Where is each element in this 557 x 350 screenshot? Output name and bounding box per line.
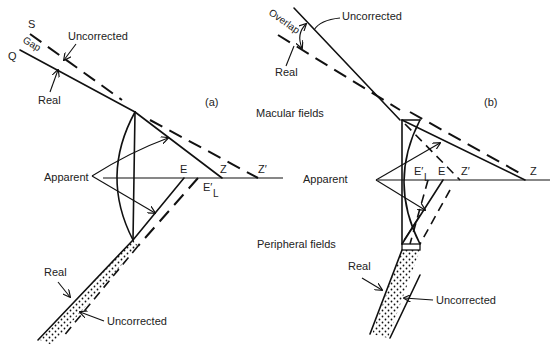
lens-b-curve xyxy=(404,120,420,244)
peripheral-fields-label: Peripheral fields xyxy=(257,238,336,250)
upper-real-leader-b xyxy=(286,46,294,66)
optical-field-diagram: (a) Q S Gap Uncorrected Real Apparent E … xyxy=(0,0,557,350)
panel-a: (a) Q S Gap Uncorrected Real Apparent E … xyxy=(8,18,283,345)
panel-b-label: (b) xyxy=(484,96,497,108)
point-e-a: E xyxy=(180,163,187,175)
upper-uncorrected-arrow-a xyxy=(64,44,76,60)
ray-label-s: S xyxy=(28,18,35,30)
lens-a-plane xyxy=(133,112,135,240)
panel-a-label: (a) xyxy=(205,96,218,108)
ray-to-z-prime xyxy=(150,120,258,178)
lower-real-label-a: Real xyxy=(44,266,67,278)
apparent-arrow-up-a xyxy=(92,138,168,176)
upper-real-arrow-a xyxy=(50,70,58,92)
lower-uncorrected-arrow-a xyxy=(80,312,104,321)
lower-uncorrected-label-a: Uncorrected xyxy=(107,315,167,327)
ray-s-uncorrected xyxy=(30,34,122,100)
apparent-arrow-down-b xyxy=(376,180,425,210)
point-z-prime-a: Z′ xyxy=(258,163,267,175)
lower-real-label-b: Real xyxy=(348,260,371,272)
apparent-arrow-down-a xyxy=(92,176,155,213)
peripheral-band-a xyxy=(40,240,138,345)
apparent-label-a: Apparent xyxy=(44,171,89,183)
gap-label: Gap xyxy=(21,34,43,53)
point-z-a: Z xyxy=(220,163,227,175)
ray-label-q: Q xyxy=(8,50,17,62)
lower-uncorrected-label-b: Uncorrected xyxy=(436,294,496,306)
band-b-cap xyxy=(402,244,420,250)
lower-real-arrow-b xyxy=(362,278,382,290)
point-e-prime-sub-a: L xyxy=(213,188,219,199)
upper-uncorrected-label-a: Uncorrected xyxy=(68,30,128,42)
upper-real-label-a: Real xyxy=(38,94,61,106)
upper-real-label-b: Real xyxy=(275,66,298,78)
ray-from-e xyxy=(133,178,184,240)
ray-b-lower-dashed xyxy=(420,190,450,244)
ray-to-z xyxy=(135,112,222,178)
point-z-b: Z xyxy=(530,165,537,177)
macular-fields-label: Macular fields xyxy=(256,107,324,119)
ray-b-uncorrected-upper xyxy=(294,8,400,120)
upper-uncorrected-leader-b xyxy=(314,18,340,30)
upper-uncorrected-label-b: Uncorrected xyxy=(342,10,402,22)
panel-b: (b) Overlap Uncorrected Real Apparent E′… xyxy=(267,7,550,338)
point-e-prime-a: E′ xyxy=(203,181,212,193)
apparent-label-b: Apparent xyxy=(303,173,348,185)
lower-real-arrow-a xyxy=(58,282,70,297)
point-e-prime-sub-b: L xyxy=(424,172,430,183)
point-e-prime-b: E′ xyxy=(414,165,423,177)
point-z-prime-b: Z′ xyxy=(461,165,470,177)
point-e-b: E xyxy=(438,165,445,177)
ray-b-cross xyxy=(404,215,420,240)
lens-a-curve xyxy=(117,112,135,240)
ray-from-e-prime-l xyxy=(138,178,198,246)
